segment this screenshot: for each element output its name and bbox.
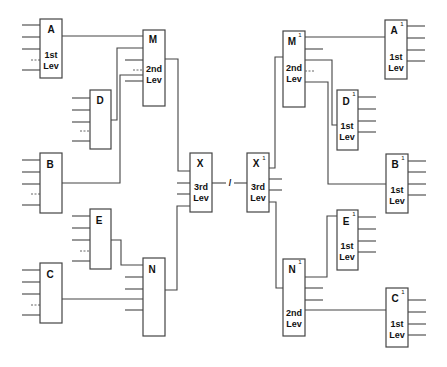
svg-text:2nd: 2nd (286, 308, 302, 318)
node-n1: N 1 2nd Lev (283, 259, 323, 336)
node-m-label: M (149, 34, 157, 45)
node-a: A 1st Lev (22, 19, 62, 78)
node-b1-label: B (391, 159, 398, 170)
node-b1: B 1 1st Lev (386, 154, 426, 213)
svg-text:2nd: 2nd (146, 64, 162, 74)
node-x1-label: X (253, 158, 260, 169)
node-c1: C 1 1st Lev (386, 288, 426, 347)
node-c-label: C (46, 269, 53, 280)
svg-text:Lev: Lev (146, 75, 162, 85)
svg-text:Lev: Lev (286, 74, 302, 84)
node-a1-label: A (390, 25, 397, 36)
node-d1: D 1 1st Lev (337, 90, 376, 150)
svg-text:Lev: Lev (43, 61, 59, 71)
node-d1-label: D (342, 96, 349, 107)
svg-text:Lev: Lev (389, 196, 405, 206)
node-x1: X 1 3rd Lev (247, 153, 282, 212)
node-e-label: E (96, 215, 103, 226)
node-e1-label: E (343, 216, 350, 227)
node-m: M 2nd Lev (125, 30, 165, 106)
svg-text:3rd: 3rd (251, 182, 265, 192)
svg-text:1st: 1st (340, 121, 353, 131)
node-e: E (72, 209, 111, 269)
node-d: D (72, 90, 111, 149)
node-b-label: B (46, 159, 53, 170)
separator-slash: / (229, 178, 232, 188)
svg-text:Lev: Lev (339, 132, 355, 142)
svg-text:Lev: Lev (339, 252, 355, 262)
svg-text:3rd: 3rd (194, 182, 208, 192)
node-m1-label: M (288, 36, 296, 47)
svg-text:2nd: 2nd (286, 63, 302, 73)
node-x: X 3rd Lev (177, 153, 212, 212)
svg-text:1st: 1st (44, 50, 57, 60)
svg-text:1st: 1st (389, 52, 402, 62)
node-c1-label: C (391, 293, 398, 304)
svg-text:Lev: Lev (250, 193, 266, 203)
svg-text:Lev: Lev (286, 319, 302, 329)
svg-text:1st: 1st (340, 241, 353, 251)
node-n1-label: N (288, 264, 295, 275)
svg-text:1st: 1st (390, 319, 403, 329)
node-b: B (22, 153, 62, 213)
svg-text:Lev: Lev (388, 63, 404, 73)
node-n-label: N (148, 264, 155, 275)
hierarchy-diagram: A 1st Lev M 2nd Lev D B (0, 0, 447, 367)
node-e1: E 1 1st Lev (337, 210, 376, 270)
svg-text:Lev: Lev (193, 193, 209, 203)
node-x-label: X (197, 158, 204, 169)
node-a-label: A (47, 24, 54, 35)
node-n: N (125, 258, 165, 336)
node-d-label: D (96, 95, 103, 106)
svg-text:Lev: Lev (389, 330, 405, 340)
node-c: C (22, 263, 62, 323)
node-a1: A 1 1st Lev (385, 20, 425, 79)
svg-text:1st: 1st (390, 185, 403, 195)
node-m1: M 1 2nd Lev (283, 31, 323, 107)
